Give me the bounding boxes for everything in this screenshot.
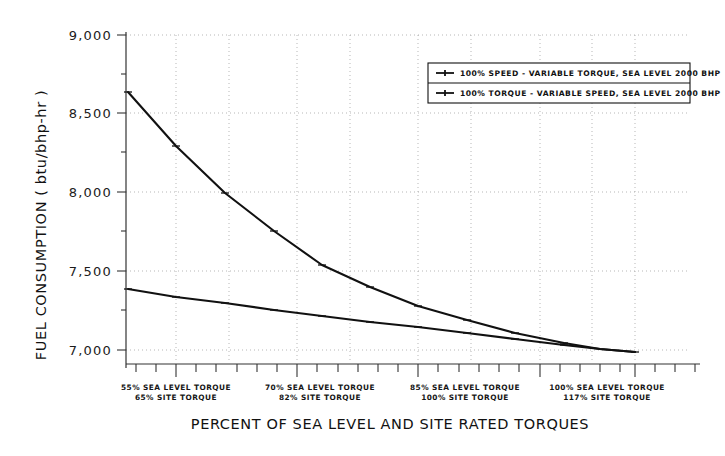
x-category-label-3-line2: 117% SITE TORQUE <box>563 393 651 402</box>
series-speed-variable-torque <box>124 92 639 352</box>
chart-container: 9,000 8,500 8,000 7,500 7,000 FUEL CONSU… <box>0 0 725 456</box>
x-category-label-2-line1: 85% SEA LEVEL TORQUE <box>410 383 520 392</box>
chart-legend[interactable]: 100% SPEED - VARIABLE TORQUE, SEA LEVEL … <box>428 63 721 103</box>
x-category-label-2-line2: 100% SITE TORQUE <box>421 393 509 402</box>
fuel-consumption-chart: 9,000 8,500 8,000 7,500 7,000 FUEL CONSU… <box>0 0 725 456</box>
x-axis-title: PERCENT OF SEA LEVEL AND SITE RATED TORQ… <box>191 416 589 432</box>
legend-label-speed: 100% SPEED - VARIABLE TORQUE, SEA LEVEL … <box>460 69 721 78</box>
x-category-label-1-line2: 82% SITE TORQUE <box>279 393 361 402</box>
x-axis <box>126 364 700 377</box>
y-tick-label-8500: 8,500 <box>69 106 112 121</box>
legend-entry-torque[interactable]: 100% TORQUE - VARIABLE SPEED, SEA LEVEL … <box>436 89 721 98</box>
x-category-label-0-line1: 55% SEA LEVEL TORQUE <box>121 383 231 392</box>
legend-label-torque: 100% TORQUE - VARIABLE SPEED, SEA LEVEL … <box>460 89 721 98</box>
series-speed-line <box>128 92 635 352</box>
y-tick-label-8000: 8,000 <box>69 185 112 200</box>
x-category-labels: 55% SEA LEVEL TORQUE 65% SITE TORQUE 70%… <box>121 383 665 402</box>
series-speed-markers <box>124 92 639 352</box>
y-tick-label-9000: 9,000 <box>69 28 112 43</box>
x-category-label-0-line2: 65% SITE TORQUE <box>135 393 217 402</box>
x-category-label-1-line1: 70% SEA LEVEL TORQUE <box>265 383 375 392</box>
y-axis-title: FUEL CONSUMPTION ( btu/bhp-hr ) <box>33 90 49 360</box>
y-axis <box>117 32 126 368</box>
x-category-label-3-line1: 100% SEA LEVEL TORQUE <box>549 383 665 392</box>
legend-entry-speed[interactable]: 100% SPEED - VARIABLE TORQUE, SEA LEVEL … <box>436 69 721 78</box>
y-tick-label-7000: 7,000 <box>69 343 112 358</box>
y-tick-label-7500: 7,500 <box>69 264 112 279</box>
